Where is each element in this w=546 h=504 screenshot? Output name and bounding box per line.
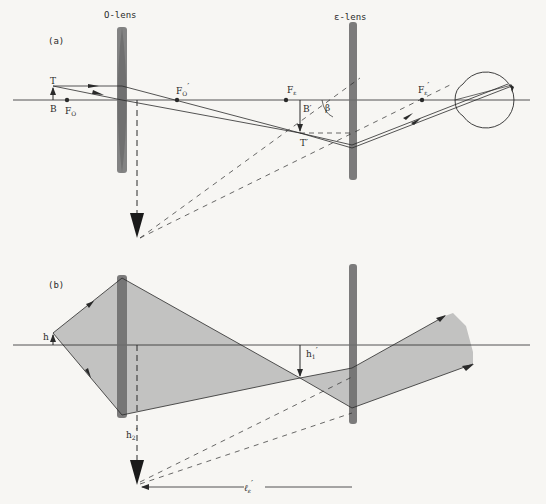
objective-lens-label: O-lens bbox=[104, 10, 137, 20]
focal-point-Fe bbox=[284, 98, 288, 102]
label-h: h bbox=[43, 332, 49, 342]
beam-eyepiece bbox=[300, 313, 473, 408]
focal-point-FO bbox=[65, 98, 69, 102]
point-T-prime: T′ bbox=[300, 138, 308, 148]
ray-chief-cont bbox=[122, 100, 300, 133]
point-B-prime: B′ bbox=[303, 104, 312, 114]
eyepiece-lens-label: ε-lens bbox=[334, 12, 367, 22]
label-FO-prime: FO′ bbox=[176, 82, 189, 97]
label-FO: FO bbox=[65, 106, 76, 117]
point-B: B bbox=[50, 104, 57, 114]
dashed-virtual-ray-b2 bbox=[140, 413, 352, 484]
beam-objective bbox=[53, 278, 300, 415]
panel-a: (a) O-lens ε-lens T B FO FO′ Fε Fε′ B′ bbox=[13, 10, 530, 238]
ray-to-eye-2 bbox=[352, 86, 512, 148]
ray-chief bbox=[53, 86, 122, 100]
beta-label: β bbox=[325, 103, 330, 113]
eyepiece-lens-a bbox=[349, 22, 357, 180]
ray-refracted-1 bbox=[122, 86, 300, 133]
ray-arrowhead bbox=[403, 113, 413, 120]
label-h1-prime: h1′ bbox=[306, 346, 318, 360]
objective-lens-b bbox=[117, 275, 127, 418]
panel-b-label: (b) bbox=[48, 280, 64, 290]
dashed-virtual-ray-2 bbox=[140, 85, 450, 238]
eyepiece-lens-b bbox=[349, 264, 357, 424]
panel-a-label: (a) bbox=[48, 36, 64, 46]
virtual-image-arrowhead bbox=[130, 213, 144, 238]
label-h2-prime: h2′ bbox=[126, 427, 138, 441]
ray-to-eye-1 bbox=[352, 84, 508, 145]
label-Fe: Fε bbox=[287, 85, 296, 96]
dashed-virtual-ray-1 bbox=[140, 78, 360, 238]
telescope-ray-diagram: (a) O-lens ε-lens T B FO FO′ Fε Fε′ B′ bbox=[0, 0, 546, 504]
panel-b: (b) h h1′ h2′ ℓε′ bbox=[13, 264, 530, 494]
label-l-e-prime: ℓε′ bbox=[244, 479, 253, 494]
label-Fe-prime: Fε′ bbox=[418, 81, 429, 96]
point-T: T bbox=[50, 76, 56, 86]
ray-arrowhead bbox=[88, 84, 99, 88]
